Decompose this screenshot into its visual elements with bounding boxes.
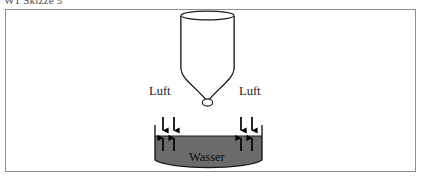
funnel-nozzle-opening (202, 99, 212, 106)
basin-air-region (155, 125, 262, 136)
figure-screenshot: W1 Skizze 5 (0, 0, 425, 181)
label-luft-right: Luft (239, 84, 261, 99)
funnel-top-rim (181, 11, 234, 20)
funnel-group (181, 11, 234, 106)
label-wasser: Wasser (189, 150, 225, 165)
funnel-interior (181, 16, 234, 99)
label-luft-left: Luft (149, 84, 171, 99)
